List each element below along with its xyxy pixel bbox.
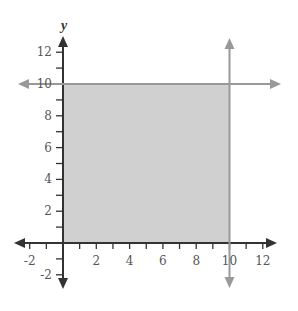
feasible-region — [63, 84, 230, 243]
x-tick-label: 6 — [159, 254, 167, 268]
line-right-arrow-icon — [270, 79, 281, 89]
y-axis-label: y — [59, 18, 68, 33]
x-tick-label: -2 — [24, 254, 36, 268]
y-axis-up-arrow-icon — [58, 36, 68, 47]
x-tick-label: 2 — [92, 254, 100, 268]
x-axis-left-arrow-icon — [14, 238, 25, 248]
y-tick-label: 12 — [37, 45, 52, 59]
y-axis-down-arrow-icon — [58, 278, 68, 289]
line-down-arrow-icon — [225, 277, 235, 288]
x-tick-label: 8 — [192, 254, 200, 268]
shaded-region — [63, 84, 230, 243]
coordinate-plane: -224681012-224681012 y — [0, 0, 298, 311]
y-tick-label: 6 — [44, 141, 52, 155]
y-tick-label: -2 — [40, 268, 52, 282]
y-tick-label: 2 — [44, 204, 52, 218]
y-tick-label: 10 — [37, 77, 52, 91]
x-tick-label: 12 — [255, 254, 270, 268]
x-tick-label: 4 — [126, 254, 134, 268]
x-tick-label: 10 — [222, 254, 237, 268]
y-tick-label: 8 — [44, 109, 52, 123]
y-tick-label: 4 — [44, 172, 52, 186]
line-left-arrow-icon — [18, 79, 29, 89]
line-up-arrow-icon — [225, 38, 235, 49]
x-axis-right-arrow-icon — [266, 238, 277, 248]
